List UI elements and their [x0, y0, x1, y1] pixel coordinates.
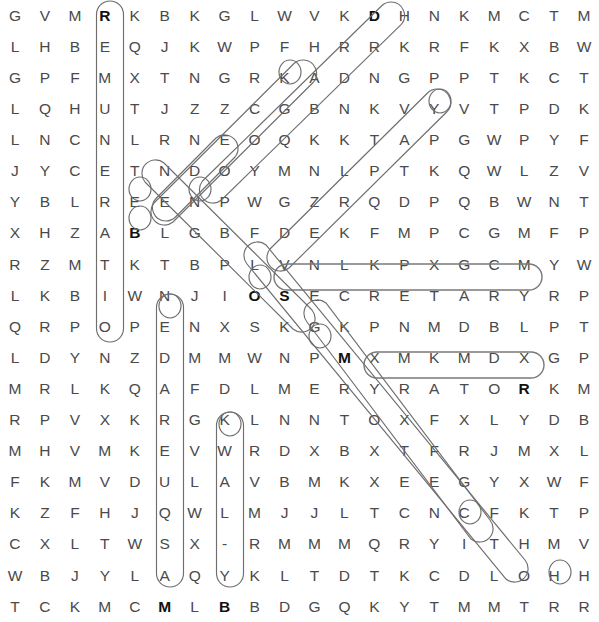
- grid-cell[interactable]: C: [240, 93, 270, 124]
- grid-cell[interactable]: Z: [300, 187, 330, 218]
- grid-cell[interactable]: C: [449, 498, 479, 529]
- grid-cell[interactable]: R: [539, 591, 569, 622]
- grid-cell[interactable]: R: [569, 591, 599, 622]
- grid-cell[interactable]: K: [120, 0, 150, 31]
- grid-cell[interactable]: L: [150, 218, 180, 249]
- grid-cell[interactable]: C: [389, 498, 419, 529]
- grid-cell[interactable]: K: [210, 404, 240, 435]
- grid-cell[interactable]: E: [419, 467, 449, 498]
- grid-cell[interactable]: W: [240, 187, 270, 218]
- grid-cell[interactable]: J: [120, 498, 150, 529]
- grid-cell[interactable]: K: [449, 0, 479, 31]
- grid-cell[interactable]: G: [389, 62, 419, 93]
- grid-cell[interactable]: W: [539, 467, 569, 498]
- grid-cell[interactable]: B: [210, 218, 240, 249]
- grid-cell[interactable]: P: [419, 124, 449, 155]
- grid-cell[interactable]: M: [389, 218, 419, 249]
- grid-cell[interactable]: Q: [270, 124, 300, 155]
- grid-cell[interactable]: G: [300, 311, 330, 342]
- grid-cell[interactable]: G: [539, 342, 569, 373]
- grid-cell[interactable]: T: [0, 591, 30, 622]
- grid-cell[interactable]: L: [0, 124, 30, 155]
- grid-cell[interactable]: M: [509, 435, 539, 466]
- grid-cell[interactable]: Y: [90, 560, 120, 591]
- grid-cell[interactable]: R: [90, 0, 120, 31]
- grid-cell[interactable]: G: [449, 124, 479, 155]
- grid-cell[interactable]: T: [120, 93, 150, 124]
- grid-cell[interactable]: U: [90, 93, 120, 124]
- grid-cell[interactable]: D: [270, 591, 300, 622]
- grid-cell[interactable]: T: [569, 62, 599, 93]
- grid-cell[interactable]: T: [90, 529, 120, 560]
- grid-cell[interactable]: Y: [509, 404, 539, 435]
- grid-cell[interactable]: Y: [60, 342, 90, 373]
- grid-cell[interactable]: D: [180, 156, 210, 187]
- grid-cell[interactable]: T: [90, 249, 120, 280]
- grid-cell[interactable]: V: [270, 249, 300, 280]
- grid-cell[interactable]: M: [329, 529, 359, 560]
- grid-cell[interactable]: A: [389, 124, 419, 155]
- grid-cell[interactable]: T: [329, 404, 359, 435]
- grid-cell[interactable]: P: [30, 404, 60, 435]
- grid-cell[interactable]: D: [329, 560, 359, 591]
- grid-cell[interactable]: B: [300, 93, 330, 124]
- grid-cell[interactable]: L: [240, 404, 270, 435]
- grid-cell[interactable]: X: [509, 342, 539, 373]
- grid-cell[interactable]: R: [150, 404, 180, 435]
- grid-cell[interactable]: H: [30, 435, 60, 466]
- grid-cell[interactable]: X: [509, 31, 539, 62]
- grid-cell[interactable]: E: [389, 280, 419, 311]
- grid-cell[interactable]: E: [300, 373, 330, 404]
- grid-cell[interactable]: B: [30, 187, 60, 218]
- grid-cell[interactable]: F: [180, 373, 210, 404]
- grid-cell[interactable]: P: [419, 187, 449, 218]
- grid-cell[interactable]: Q: [150, 498, 180, 529]
- grid-cell[interactable]: -: [210, 529, 240, 560]
- grid-cell[interactable]: N: [539, 187, 569, 218]
- grid-cell[interactable]: L: [120, 560, 150, 591]
- grid-cell[interactable]: R: [240, 529, 270, 560]
- grid-cell[interactable]: K: [389, 31, 419, 62]
- grid-cell[interactable]: M: [419, 311, 449, 342]
- grid-cell[interactable]: L: [329, 249, 359, 280]
- grid-cell[interactable]: Z: [60, 218, 90, 249]
- grid-cell[interactable]: X: [30, 529, 60, 560]
- grid-cell[interactable]: H: [509, 529, 539, 560]
- grid-cell[interactable]: N: [419, 498, 449, 529]
- grid-cell[interactable]: F: [240, 218, 270, 249]
- grid-cell[interactable]: K: [419, 342, 449, 373]
- grid-cell[interactable]: W: [270, 0, 300, 31]
- grid-cell[interactable]: X: [449, 404, 479, 435]
- grid-cell[interactable]: W: [479, 156, 509, 187]
- grid-cell[interactable]: E: [389, 467, 419, 498]
- grid-cell[interactable]: Q: [120, 31, 150, 62]
- grid-cell[interactable]: B: [180, 249, 210, 280]
- grid-cell[interactable]: D: [329, 62, 359, 93]
- grid-cell[interactable]: C: [120, 591, 150, 622]
- grid-cell[interactable]: Q: [359, 529, 389, 560]
- grid-cell[interactable]: C: [0, 529, 30, 560]
- grid-cell[interactable]: P: [389, 249, 419, 280]
- grid-cell[interactable]: A: [210, 467, 240, 498]
- grid-cell[interactable]: D: [449, 560, 479, 591]
- grid-cell[interactable]: L: [329, 156, 359, 187]
- grid-cell[interactable]: R: [419, 31, 449, 62]
- grid-cell[interactable]: H: [30, 31, 60, 62]
- grid-cell[interactable]: W: [120, 529, 150, 560]
- grid-cell[interactable]: H: [389, 0, 419, 31]
- grid-cell[interactable]: M: [0, 373, 30, 404]
- grid-cell[interactable]: M: [389, 342, 419, 373]
- grid-cell[interactable]: S: [270, 280, 300, 311]
- grid-cell[interactable]: Q: [449, 187, 479, 218]
- grid-cell[interactable]: C: [419, 560, 449, 591]
- grid-cell[interactable]: M: [0, 435, 30, 466]
- grid-cell[interactable]: L: [210, 498, 240, 529]
- grid-cell[interactable]: O: [240, 124, 270, 155]
- grid-cell[interactable]: F: [419, 404, 449, 435]
- grid-cell[interactable]: M: [300, 529, 330, 560]
- grid-cell[interactable]: F: [359, 218, 389, 249]
- grid-cell[interactable]: Q: [180, 560, 210, 591]
- grid-cell[interactable]: F: [419, 435, 449, 466]
- grid-cell[interactable]: X: [90, 404, 120, 435]
- grid-cell[interactable]: K: [329, 311, 359, 342]
